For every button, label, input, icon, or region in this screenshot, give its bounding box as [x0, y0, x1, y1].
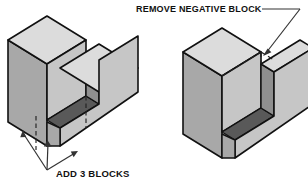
left-figure-additive-u-block: ADD 3 BLOCKS: [8, 16, 138, 179]
right-block-notch-inner-wall: [261, 64, 274, 116]
left-figure-caption: ADD 3 BLOCKS: [56, 168, 130, 179]
right-figure-caption: REMOVE NEGATIVE BLOCK: [136, 4, 262, 14]
leader-arrow-3-head: [71, 151, 78, 157]
right-leader-arrow-head: [263, 49, 271, 56]
right-figure-subtractive-u-block: REMOVE NEGATIVE BLOCK: [136, 4, 308, 158]
leader-arrow-2-line: [47, 143, 48, 170]
diagram-canvas: ADD 3 BLOCKS: [0, 0, 308, 185]
technical-diagram-svg: ADD 3 BLOCKS: [0, 0, 308, 185]
